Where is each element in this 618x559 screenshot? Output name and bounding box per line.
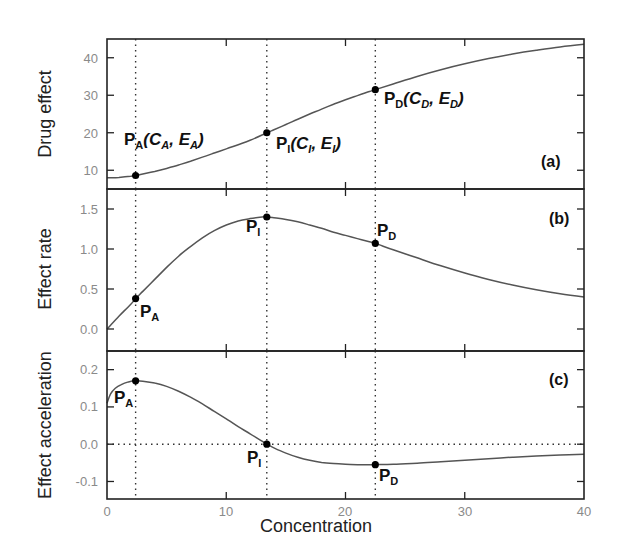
point-marker bbox=[263, 129, 270, 136]
point-label-pd-b: PD bbox=[377, 221, 396, 242]
point-label-pa-c: PA bbox=[114, 388, 133, 409]
point-label-pd-c: PD bbox=[379, 466, 398, 487]
point-label-pi-b: PI bbox=[246, 217, 260, 238]
ytick-a-30: 30 bbox=[84, 88, 98, 103]
ytick-c-neg0.1: -0.1 bbox=[76, 474, 98, 489]
ytick-c-0.2: 0.2 bbox=[80, 362, 98, 377]
panel-c: -0.1 0.0 0.1 0.2 Effect acceleration (c)… bbox=[35, 351, 591, 536]
point-marker bbox=[132, 172, 139, 179]
ylabel-effect-acceleration: Effect acceleration bbox=[35, 351, 55, 499]
point-label-pi-full: PI(CI, EI) bbox=[276, 134, 341, 155]
point-label-pa-b: PA bbox=[140, 302, 159, 323]
point-marker bbox=[263, 441, 270, 448]
panel-frame bbox=[107, 351, 584, 499]
point-label-pd-full: PD(CD, ED) bbox=[384, 89, 464, 110]
ytick-b-0.5: 0.5 bbox=[80, 282, 98, 297]
point-label-pi-c: PI bbox=[247, 448, 261, 469]
point-marker bbox=[372, 240, 379, 247]
point-marker bbox=[132, 377, 139, 384]
ylabel-effect-rate: Effect rate bbox=[35, 228, 55, 310]
ytick-a-20: 20 bbox=[84, 126, 98, 141]
ytick-b-1.5: 1.5 bbox=[80, 202, 98, 217]
ytick-a-10: 10 bbox=[84, 163, 98, 178]
point-marker bbox=[372, 461, 379, 468]
xtick-10: 10 bbox=[219, 504, 233, 519]
panel-tag-a: (a) bbox=[541, 153, 561, 170]
ytick-b-1.0: 1.0 bbox=[80, 242, 98, 257]
ytick-a-40: 40 bbox=[84, 51, 98, 66]
xtick-30: 30 bbox=[458, 504, 472, 519]
ytick-b-0.0: 0.0 bbox=[80, 322, 98, 337]
xlabel-concentration: Concentration bbox=[260, 516, 372, 536]
drug-effect-chart: 10 20 30 40 Drug effect (a) PA(CA, EA) P… bbox=[0, 0, 618, 559]
panel-tag-c: (c) bbox=[549, 371, 569, 388]
point-marker bbox=[372, 86, 379, 93]
panel-b: 0.0 0.5 1.0 1.5 Effect rate (b) PA PI PD bbox=[35, 189, 584, 351]
xtick-0: 0 bbox=[103, 504, 110, 519]
curve-effect-rate bbox=[107, 217, 584, 329]
curve-effect-acceleration bbox=[107, 381, 584, 465]
xtick-40: 40 bbox=[577, 504, 591, 519]
ytick-c-0.0: 0.0 bbox=[80, 437, 98, 452]
panel-a: 10 20 30 40 Drug effect (a) PA(CA, EA) P… bbox=[35, 39, 584, 189]
ylabel-drug-effect: Drug effect bbox=[35, 70, 55, 158]
point-marker bbox=[132, 295, 139, 302]
panel-frame bbox=[107, 189, 584, 351]
panel-a-curve-layer bbox=[107, 39, 584, 189]
panel-b-curve-layer bbox=[107, 189, 584, 351]
point-marker bbox=[263, 213, 270, 220]
curve-drug-effect bbox=[107, 44, 584, 178]
ytick-c-0.1: 0.1 bbox=[80, 399, 98, 414]
panel-frame bbox=[107, 39, 584, 189]
panel-tag-b: (b) bbox=[549, 210, 569, 227]
panel-c-curve-layer bbox=[107, 351, 584, 499]
